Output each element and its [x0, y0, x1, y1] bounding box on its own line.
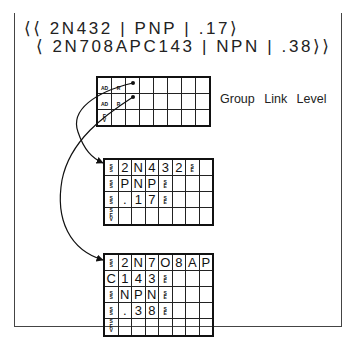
grid-cell: [145, 319, 159, 337]
grid-cell: [172, 287, 186, 303]
grid-cell: .: [118, 192, 132, 208]
grid-cell: 3: [132, 303, 146, 319]
grid-row: AD R: [97, 94, 210, 110]
grid-cell: N: [145, 287, 159, 303]
grid-cell: [172, 176, 186, 192]
grid-cell: [186, 176, 200, 192]
grid-cell: 3: [159, 159, 173, 176]
grid-row: SS 2 N 4 3 2 SE: [104, 159, 213, 176]
grid-cell: SE: [159, 271, 173, 287]
grid-cell: [199, 192, 213, 208]
grid-cell: [186, 208, 200, 226]
grid-row: SS 2 N 7 O 8 A P: [104, 254, 213, 271]
grid-cell: [154, 77, 168, 94]
group-link-level-grid: AD R AD R EV: [96, 76, 211, 127]
grid-row: SS P N P SE: [104, 176, 213, 192]
link-pointer-cell: [126, 77, 140, 94]
record-2-grid: SS 2 N 7 O 8 A P C 1 4 3 SE SS N P N SE …: [103, 253, 214, 337]
group-link-level-label: Group Link Level: [220, 92, 327, 106]
grid-row: SS N P N SE: [104, 287, 213, 303]
grid-cell: [186, 271, 200, 287]
grid-cell: [172, 192, 186, 208]
grid-cell: SS: [104, 176, 118, 192]
grid-cell: R: [112, 77, 126, 94]
grid-cell: N: [132, 254, 146, 271]
grid-cell: SEV: [104, 319, 118, 337]
grid-row: SEV: [104, 208, 213, 226]
grid-cell: [118, 208, 132, 226]
grid-cell: [145, 208, 159, 226]
grid-cell: [112, 110, 126, 127]
grid-cell: P: [199, 254, 213, 271]
grid-cell: P: [145, 176, 159, 192]
grid-cell: [140, 77, 154, 94]
grid-cell: SS: [104, 254, 118, 271]
grid-cell: 7: [145, 254, 159, 271]
grid-cell: [172, 303, 186, 319]
grid-cell: [118, 319, 132, 337]
grid-cell: [172, 208, 186, 226]
grid-cell: [199, 319, 213, 337]
grid-cell: P: [118, 176, 132, 192]
grid-cell: SE: [159, 192, 173, 208]
grid-cell: [154, 110, 168, 127]
grid-cell: [196, 77, 211, 94]
grid-cell: 3: [145, 271, 159, 287]
grid-cell: [199, 159, 213, 176]
grid-cell: SE: [159, 303, 173, 319]
grid-row: C 1 4 3 SE: [104, 271, 213, 287]
grid-cell: A: [186, 254, 200, 271]
grid-cell: 2: [118, 254, 132, 271]
grid-cell: [186, 192, 200, 208]
grid-cell: R: [112, 94, 126, 110]
grid-cell: [154, 94, 168, 110]
grid-cell: [186, 303, 200, 319]
grid-cell: SS: [104, 192, 118, 208]
grid-cell: SS: [104, 303, 118, 319]
grid-cell: 4: [132, 271, 146, 287]
list-notation-line-1: ⟨⟨ 2N432 | PNP | .17⟩: [24, 20, 239, 38]
grid-cell: [199, 303, 213, 319]
grid-cell: SE: [159, 287, 173, 303]
grid-cell: [186, 319, 200, 337]
grid-cell: N: [132, 176, 146, 192]
grid-cell: [126, 110, 140, 127]
grid-row: AD R: [97, 77, 210, 94]
grid-cell: AD: [97, 77, 112, 94]
grid-cell: SS: [104, 287, 118, 303]
grid-row: SS . 1 7 SE: [104, 192, 213, 208]
grid-cell: 7: [145, 192, 159, 208]
grid-cell: SE: [159, 176, 173, 192]
grid-cell: 1: [118, 271, 132, 287]
grid-cell: [182, 94, 196, 110]
grid-cell: 8: [172, 254, 186, 271]
grid-cell: [196, 110, 211, 127]
grid-cell: [140, 110, 154, 127]
grid-cell: O: [159, 254, 173, 271]
grid-row: EV: [97, 110, 210, 127]
grid-cell: EV: [97, 110, 112, 127]
grid-cell: [199, 287, 213, 303]
grid-cell: 2: [172, 159, 186, 176]
grid-cell: SS: [104, 159, 118, 176]
grid-cell: [199, 271, 213, 287]
grid-cell: [196, 94, 211, 110]
grid-cell: [172, 271, 186, 287]
grid-cell: [182, 77, 196, 94]
grid-cell: .: [118, 303, 132, 319]
grid-cell: [168, 77, 182, 94]
grid-cell: SEV: [104, 208, 118, 226]
grid-cell: [132, 208, 146, 226]
grid-cell: [199, 208, 213, 226]
grid-cell: 4: [145, 159, 159, 176]
grid-cell: [168, 110, 182, 127]
grid-row: SS . 3 8 SE: [104, 303, 213, 319]
grid-cell: [159, 319, 173, 337]
grid-row: SEV: [104, 319, 213, 337]
list-notation-line-2: ⟨ 2N708APC143 | NPN | .38⟩⟩: [36, 38, 331, 56]
grid-cell: AD: [97, 94, 112, 110]
grid-cell: [168, 94, 182, 110]
grid-cell: N: [132, 159, 146, 176]
grid-cell: 8: [145, 303, 159, 319]
grid-cell: P: [132, 287, 146, 303]
